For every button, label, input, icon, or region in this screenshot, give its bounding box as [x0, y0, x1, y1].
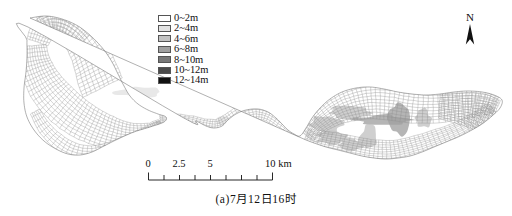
depth-fill-layer	[16, 16, 502, 159]
depth-patch	[352, 114, 415, 125]
mesh-cell-lines	[302, 103, 496, 163]
legend-swatch-2-4m	[158, 25, 171, 32]
depth-patch	[358, 124, 377, 148]
depth-patch	[315, 130, 349, 145]
mesh-cell-lines	[299, 76, 500, 141]
mesh-cell-lines	[27, 12, 91, 50]
scale-label-2-5: 2.5	[172, 158, 185, 169]
shoreline-outline-layer	[16, 16, 502, 159]
bathymetry-figure: 0~2m 2~4m 4~6m 6~8m 8~10m 10~12m 12~14m …	[0, 0, 512, 216]
depth-patch	[415, 108, 433, 128]
legend-swatch-0-2m	[158, 15, 171, 22]
mesh-cell-lines	[37, 10, 123, 98]
legend-label-12-14m: 12~14m	[174, 75, 208, 85]
north-arrow: N	[457, 12, 483, 46]
scale-bar-ruler	[148, 171, 273, 181]
legend-swatch-10-12m	[158, 67, 171, 74]
mesh-cell-lines	[160, 102, 300, 138]
shoreline	[16, 16, 502, 159]
mesh-grid-layer	[20, 10, 501, 164]
scale-bar: 0 2.5 5 10 km	[148, 158, 273, 184]
north-arrow-icon	[464, 24, 476, 45]
depth-patch	[329, 106, 374, 121]
lake-water-fill	[16, 16, 502, 159]
legend-swatch-8-10m	[158, 56, 171, 63]
mesh-cell-lines	[30, 109, 161, 159]
legend-swatch-4-6m	[158, 35, 171, 42]
scale-label-0: 0	[145, 158, 150, 169]
legend-item: 12~14m	[158, 75, 208, 85]
scale-label-10km: 10 km	[265, 158, 292, 169]
depth-patch	[338, 138, 365, 151]
mesh-cell-lines	[438, 93, 500, 134]
scale-label-5: 5	[207, 158, 212, 169]
figure-caption: (a)7月12日16时	[0, 190, 512, 206]
depth-legend: 0~2m 2~4m 4~6m 6~8m 8~10m 10~12m 12~14m	[158, 13, 208, 86]
depth-patch	[308, 116, 345, 135]
scale-bar-tick-path	[149, 173, 273, 181]
mesh-cell-lines	[20, 44, 168, 150]
legend-swatch-12-14m	[158, 77, 171, 84]
legend-swatch-6-8m	[158, 46, 171, 53]
scale-bar-labels: 0 2.5 5 10 km	[148, 158, 273, 171]
depth-patch	[112, 87, 159, 98]
depth-patch	[217, 116, 238, 127]
legend-item: 6~8m	[158, 44, 208, 54]
north-label: N	[466, 12, 474, 23]
depth-patch	[387, 102, 410, 136]
